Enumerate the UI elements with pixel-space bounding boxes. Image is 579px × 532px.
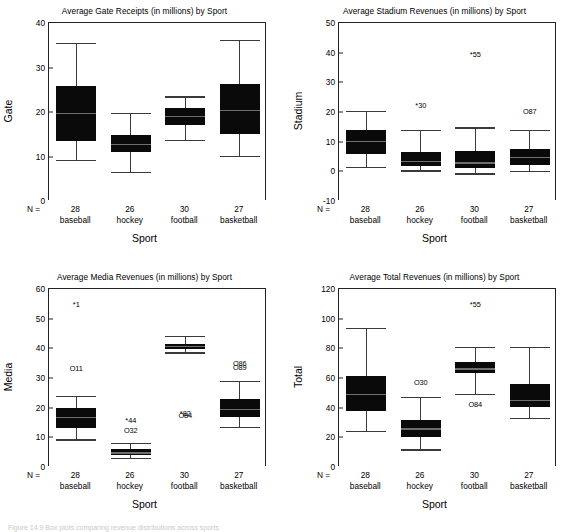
chart-title: Average Total Revenues (in millions) by …	[290, 272, 579, 282]
chart-panel-total: Average Total Revenues (in millions) by …	[290, 266, 579, 532]
whisker-upper	[239, 40, 240, 84]
whisker-cap-lower	[220, 427, 260, 428]
y-axis-tick-label: 30	[326, 77, 339, 87]
y-axis-tick-mark	[339, 437, 343, 438]
chart-title: Average Stadium Revenues (in millions) b…	[290, 6, 579, 16]
whisker-upper	[76, 396, 77, 408]
sample-size-value: 27	[234, 470, 243, 480]
y-axis-tick-label: 0	[40, 196, 49, 206]
whisker-cap-upper	[346, 328, 386, 329]
sample-size-value: 26	[415, 470, 424, 480]
y-axis-tick-label: 40	[36, 18, 49, 28]
whisker-cap-upper	[510, 347, 550, 348]
median-line	[455, 162, 495, 163]
y-axis-tick-label: 10	[36, 432, 49, 442]
sample-size-value: 27	[524, 204, 533, 214]
sample-size-value: 30	[180, 204, 189, 214]
whisker-cap-upper	[165, 96, 205, 97]
whisker-cap-lower	[510, 418, 550, 419]
outlier-label: O84	[468, 399, 482, 408]
y-axis-tick-label: 120	[321, 284, 339, 294]
whisker-cap-upper	[56, 396, 96, 397]
whisker-lower	[475, 373, 476, 395]
whisker-cap-upper	[111, 443, 151, 444]
x-axis-category-label: hockey	[117, 481, 143, 491]
whisker-lower	[366, 411, 367, 431]
x-axis-title: Sport	[290, 232, 579, 244]
chart-panel-media: Average Media Revenues (in millions) by …	[0, 266, 289, 532]
x-axis-category-label: hockey	[117, 215, 143, 225]
whisker-lower	[185, 125, 186, 140]
whisker-lower	[130, 152, 131, 172]
outlier-label: *55	[470, 49, 481, 58]
sample-size-prefix: N =	[317, 470, 330, 480]
whisker-upper	[475, 347, 476, 362]
sample-size-value: 26	[415, 204, 424, 214]
whisker-upper	[366, 111, 367, 131]
y-axis-tick-mark	[49, 112, 53, 113]
y-axis-tick-label: 30	[36, 63, 49, 73]
x-axis-category-label: baseball	[60, 215, 91, 225]
whisker-cap-lower	[111, 458, 151, 459]
outlier-label: *55	[470, 299, 481, 308]
sample-size-value: 28	[71, 470, 80, 480]
whisker-cap-upper	[401, 397, 441, 398]
outlier-label: O87	[523, 106, 537, 115]
y-axis-tick-mark	[339, 407, 343, 408]
whisker-cap-lower	[165, 352, 205, 353]
outlier-label: O32	[124, 425, 138, 434]
y-axis-tick-mark	[339, 141, 343, 142]
y-axis-tick-mark	[339, 112, 343, 113]
sample-size-value: 26	[125, 204, 134, 214]
median-line	[56, 113, 96, 114]
chart-panel-gate: Average Gate Receipts (in millions) by S…	[0, 0, 289, 266]
median-line	[165, 116, 205, 117]
y-axis-tick-label: 50	[36, 314, 49, 324]
x-axis-category-label: hockey	[407, 481, 433, 491]
x-axis-category-label: football	[171, 481, 198, 491]
whisker-upper	[475, 127, 476, 150]
x-axis-category-label: football	[461, 481, 488, 491]
y-axis-tick-mark	[49, 437, 53, 438]
plot-area-stadium: -1001020304050*30*55O87	[338, 22, 556, 200]
whisker-cap-lower	[111, 172, 151, 173]
outlier-label: O30	[414, 378, 428, 387]
whisker-lower	[420, 437, 421, 449]
y-axis-tick-mark	[339, 171, 343, 172]
sample-size-value: 30	[180, 470, 189, 480]
whisker-upper	[130, 113, 131, 135]
median-line	[510, 400, 550, 401]
y-axis-tick-mark	[339, 318, 343, 319]
whisker-cap-upper	[401, 130, 441, 131]
y-axis-tick-mark	[49, 348, 53, 349]
y-axis-title: Total	[292, 366, 304, 388]
median-line	[455, 368, 495, 369]
whisker-cap-upper	[56, 43, 96, 44]
outlier-label: O89	[233, 363, 247, 372]
x-axis-category-label: baseball	[60, 481, 91, 491]
median-line	[220, 110, 260, 111]
x-axis-category-label: football	[461, 215, 488, 225]
y-axis-tick-label: 20	[326, 107, 339, 117]
sample-size-value: 26	[125, 470, 134, 480]
figure-caption-fragment: Figure 14.9 Box plots comparing revenue …	[8, 524, 219, 532]
whisker-lower	[529, 407, 530, 418]
median-line	[165, 346, 205, 347]
median-line	[346, 394, 386, 395]
plot-area-gate: 010203040	[48, 22, 266, 200]
y-axis-tick-label: 80	[326, 343, 339, 353]
whisker-cap-upper	[111, 113, 151, 114]
y-axis-tick-mark	[49, 407, 53, 408]
box-iqr	[401, 152, 441, 165]
sample-size-value: 28	[361, 470, 370, 480]
whisker-lower	[239, 417, 240, 427]
whisker-lower	[76, 141, 77, 160]
x-axis-category-label: basketball	[510, 481, 547, 491]
y-axis-title: Gate	[2, 100, 14, 123]
sample-size-value: 27	[234, 204, 243, 214]
whisker-lower	[239, 134, 240, 156]
whisker-cap-lower	[220, 156, 260, 157]
y-axis-tick-label: 20	[36, 403, 49, 413]
sample-size-value: 30	[470, 470, 479, 480]
sample-size-prefix: N =	[317, 204, 330, 214]
